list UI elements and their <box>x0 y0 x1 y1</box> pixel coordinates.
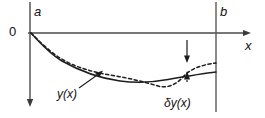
variation-down-arrow-head-icon <box>184 56 190 64</box>
right-endpoint-label-b: b <box>220 5 227 18</box>
path-label-leader <box>79 71 103 89</box>
leader-line-segment <box>79 73 100 88</box>
right-arrow-head-icon <box>243 30 251 36</box>
origin-label: 0 <box>9 25 16 38</box>
left-boundary-axis <box>27 2 33 107</box>
variation-label: δy(x) <box>164 97 191 109</box>
left-endpoint-label-a: a <box>34 5 41 18</box>
x-axis-label: x <box>245 39 252 52</box>
variation-diagram-figure: 0 a b x y(x) δy(x) <box>0 0 265 118</box>
x-axis <box>28 30 251 36</box>
solid-curve-label: y(x) <box>57 88 77 100</box>
down-arrow-head-icon <box>27 99 33 107</box>
